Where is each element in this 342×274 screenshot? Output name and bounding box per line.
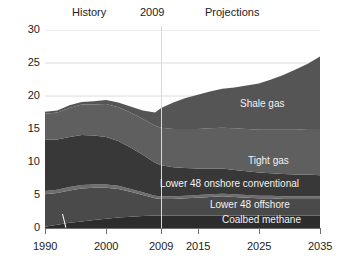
series-label-coalbed-methane: Coalbed methane [222, 214, 301, 225]
y-axis-tick-15: 15 [14, 123, 40, 134]
series-label-tight-gas: Tight gas [248, 155, 289, 166]
series-label-lower-48-onshore-conventional: Lower 48 onshore conventional [160, 178, 299, 189]
y-axis-tick-30: 30 [14, 24, 40, 35]
x-axis-tickmark-1990 [45, 229, 46, 234]
year-2009-divider-line [161, 26, 162, 230]
y-axis-tick-labels: 051015202530 [14, 0, 40, 274]
x-axis-tickmark-2000 [106, 229, 107, 234]
history-region-label: History [72, 6, 106, 18]
year-marker-label: 2009 [140, 6, 164, 18]
series-label-alaska: Alaska [0, 0, 342, 11]
y-axis-tick-25: 25 [14, 57, 40, 68]
y-axis-tick-5: 5 [14, 189, 40, 200]
x-axis-tick-1990: 1990 [33, 240, 57, 252]
x-axis-tick-2000: 2000 [94, 240, 118, 252]
x-axis-tickmark-2009 [161, 229, 162, 234]
y-axis-tick-0: 0 [14, 222, 40, 233]
x-axis-tick-2035: 2035 [308, 240, 332, 252]
series-label-shale-gas: Shale gas [240, 98, 284, 109]
y-axis-tick-10: 10 [14, 156, 40, 167]
y-axis-tick-20: 20 [14, 90, 40, 101]
x-axis-tickmark-2025 [259, 229, 260, 234]
x-axis-tickmark-2015 [198, 229, 199, 234]
projections-region-label: Projections [205, 6, 259, 18]
stacked-area-chart: History 2009 Projections 051015202530 19… [0, 0, 342, 274]
series-label-lower-48-offshore: Lower 48 offshore [210, 199, 290, 210]
x-axis-tick-2009: 2009 [149, 240, 173, 252]
x-axis-tickmark-2035 [320, 229, 321, 234]
x-axis-tick-2015: 2015 [186, 240, 210, 252]
x-axis-line [45, 228, 321, 229]
x-axis-tick-2025: 2025 [247, 240, 271, 252]
